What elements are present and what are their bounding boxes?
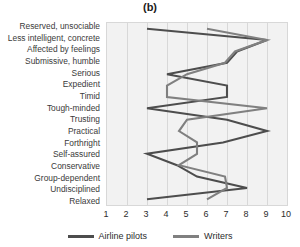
x-tick-label: 4 (163, 209, 168, 219)
category-axis-labels: Reserved, unsociableLess intelligent, co… (0, 22, 103, 206)
category-label: Practical (68, 127, 103, 136)
chart-container: (b) Reserved, unsociableLess intelligent… (0, 0, 300, 247)
x-tick-label: 2 (123, 209, 128, 219)
x-tick-label: 9 (263, 209, 268, 219)
series-line (147, 29, 267, 200)
category-label: Less intelligent, concrete (8, 34, 103, 43)
category-label: Forthright (64, 139, 103, 148)
legend-line-icon (68, 235, 94, 238)
category-label: Expedient (63, 80, 103, 89)
legend-line-icon (173, 235, 199, 238)
chart-title: (b) (0, 1, 300, 13)
legend-item[interactable]: Writers (173, 231, 232, 241)
category-label: Undisciplined (50, 185, 103, 194)
x-tick-label: 8 (243, 209, 248, 219)
x-tick-label: 1 (103, 209, 108, 219)
series-lines (107, 23, 287, 205)
x-tick-label: 5 (183, 209, 188, 219)
x-tick-label: 10 (281, 209, 291, 219)
category-label: Affected by feelings (27, 45, 103, 54)
legend-label: Airline pilots (99, 231, 148, 241)
x-tick-label: 6 (203, 209, 208, 219)
category-label: Group-dependent (34, 174, 103, 183)
category-label: Conservative (51, 162, 103, 171)
x-tick-label: 3 (143, 209, 148, 219)
category-label: Reserved, unsociable (19, 22, 103, 31)
chart-legend: Airline pilotsWriters (0, 228, 300, 244)
legend-label: Writers (204, 231, 232, 241)
category-label: Serious (72, 69, 103, 78)
legend-item[interactable]: Airline pilots (68, 231, 148, 241)
category-label: Self-assured (53, 150, 103, 159)
category-label: Relaxed (69, 197, 103, 206)
category-label: Submissive, humble (25, 57, 103, 66)
x-axis-ticks: 12345678910 (106, 207, 288, 221)
x-tick-label: 7 (223, 209, 228, 219)
category-label: Trusting (70, 115, 103, 124)
category-label: Tough-minded (47, 104, 103, 113)
plot-area (106, 22, 288, 206)
category-label: Timid (80, 92, 103, 101)
